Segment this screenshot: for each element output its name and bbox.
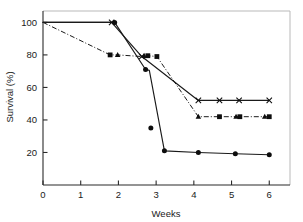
x-axis-label: Weeks [152, 208, 181, 219]
chart-canvas: 20406080100 0123456 Weeks Survival (%) [0, 0, 303, 222]
marker-circle [267, 152, 272, 157]
marker-circle [143, 67, 148, 72]
marker-circle [148, 126, 153, 131]
x-tick-label: 2 [116, 189, 121, 200]
x-tick-label: 5 [229, 189, 234, 200]
marker-square [267, 114, 272, 119]
y-tick-label: 100 [21, 17, 37, 28]
marker-square [154, 54, 159, 59]
marker-circle [162, 148, 167, 153]
survival-chart-figure: 20406080100 0123456 Weeks Survival (%) [0, 0, 303, 222]
y-tick-label: 80 [26, 49, 37, 60]
marker-square [108, 53, 113, 58]
marker-circle [112, 20, 117, 25]
y-tick-label: 40 [26, 114, 37, 125]
y-axis-label: Survival (%) [4, 71, 15, 122]
x-tick-label: 0 [40, 189, 45, 200]
x-tick-label: 3 [153, 189, 158, 200]
marker-square [217, 114, 222, 119]
y-tick-label: 20 [26, 147, 37, 158]
marker-circle [233, 151, 238, 156]
marker-circle [196, 150, 201, 155]
x-tick-label: 6 [267, 189, 272, 200]
x-tick-label: 4 [191, 189, 196, 200]
y-tick-label: 60 [26, 82, 37, 93]
x-tick-label: 1 [78, 189, 83, 200]
